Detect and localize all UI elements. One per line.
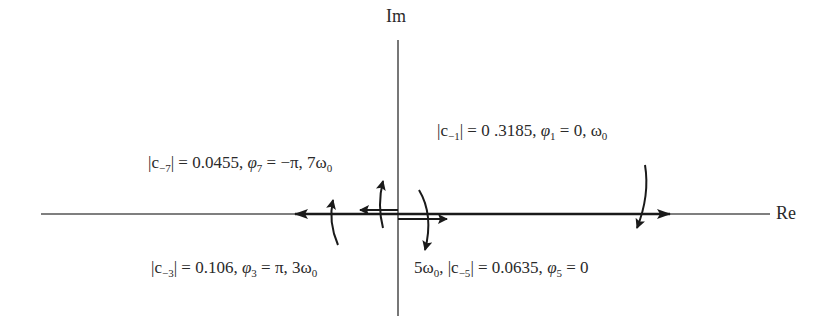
label-subscript: −5 xyxy=(459,267,471,279)
label-text: | = 0.0635, xyxy=(470,258,547,277)
label-subscript: −3 xyxy=(162,267,174,279)
label-text: | = 0 .3185, xyxy=(460,121,541,140)
phasor-c-3-rotation-arrow xyxy=(331,200,338,245)
label-text: = −π, 7ω xyxy=(262,153,326,172)
label-text: = 0 xyxy=(562,258,589,277)
phi-symbol: φ xyxy=(242,258,251,277)
phasor-c-7-rotation-arrow xyxy=(380,181,383,228)
label-text: 5ω xyxy=(414,258,434,277)
label-subscript: −1 xyxy=(448,130,460,142)
real-axis-label: Re xyxy=(776,203,796,224)
phasor-c-1-rotation-arrow xyxy=(637,165,646,228)
phasor-c-1-label: |c−1| = 0 .3185, φ1 = 0, ω0 xyxy=(437,121,607,141)
imaginary-axis-label: Im xyxy=(386,6,406,27)
label-text: = π, 3ω xyxy=(257,258,312,277)
label-text: | = 0.106, xyxy=(174,258,242,277)
phi-symbol: φ xyxy=(547,258,556,277)
label-subscript: 0 xyxy=(327,162,333,174)
label-text: |c xyxy=(151,258,162,277)
label-subscript: 0 xyxy=(602,130,608,142)
phasor-c-5-label: 5ω0, |c−5| = 0.0635, φ5 = 0 xyxy=(414,258,589,278)
label-text: = 0, ω xyxy=(556,121,602,140)
label-subscript: 0 xyxy=(312,267,318,279)
label-text: |c xyxy=(437,121,448,140)
label-text: | = 0.0455, xyxy=(171,153,248,172)
phasor-c-7-label: |c−7| = 0.0455, φ7 = −π, 7ω0 xyxy=(148,153,332,173)
phasor-diagram-canvas xyxy=(0,0,837,331)
phasor-c-3-label: |c−3| = 0.106, φ3 = π, 3ω0 xyxy=(151,258,317,278)
phi-symbol: φ xyxy=(541,121,550,140)
phi-symbol: φ xyxy=(247,153,256,172)
label-text: , |c xyxy=(439,258,458,277)
label-subscript: −7 xyxy=(159,162,171,174)
label-text: |c xyxy=(148,153,159,172)
